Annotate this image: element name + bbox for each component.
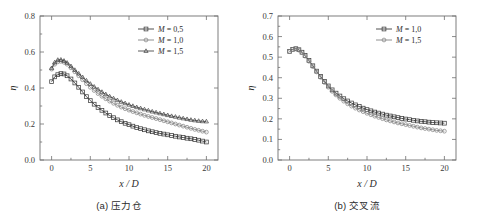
y-tick-label: 0.5 xyxy=(262,52,273,62)
y-tick-label: 0.2 xyxy=(262,114,273,124)
y-tick-label: 0.6 xyxy=(262,32,273,42)
y-axis-title: η xyxy=(245,85,256,90)
series-line xyxy=(290,49,445,123)
figure-container: 051015200.00.20.40.60.8x / DηM = 0,5M = … xyxy=(0,0,477,216)
x-tick-label: 0 xyxy=(287,163,291,173)
series-3 xyxy=(50,58,209,123)
legend-label: M = 0,5 xyxy=(157,25,183,34)
y-tick-label: 0.2 xyxy=(24,119,35,129)
chart-a: 051015200.00.20.40.60.8x / DηM = 0,5M = … xyxy=(0,0,238,196)
x-tick-label: 20 xyxy=(440,163,449,173)
x-tick-label: 20 xyxy=(202,163,211,173)
chart-b: 051015200.00.10.20.30.40.50.60.7x / DηM … xyxy=(238,0,476,196)
x-tick-label: 15 xyxy=(401,163,410,173)
legend-item[interactable]: M = 1,0 xyxy=(138,36,183,45)
legend-item[interactable]: M = 1,0 xyxy=(376,25,421,34)
series-line xyxy=(290,49,445,131)
legend-item[interactable]: M = 0,5 xyxy=(138,25,183,34)
x-axis-title: x / D xyxy=(356,178,377,189)
legend-label: M = 1,5 xyxy=(157,47,183,56)
series-line xyxy=(52,61,207,132)
panel-a: 051015200.00.20.40.60.8x / DηM = 0,5M = … xyxy=(0,0,238,216)
x-tick-label: 5 xyxy=(326,163,330,173)
caption-b: (b) 交叉流 xyxy=(238,198,476,212)
y-tick-label: 0.8 xyxy=(24,11,35,21)
series-1 xyxy=(50,72,209,144)
x-axis-title: x / D xyxy=(118,178,139,189)
x-tick-label: 10 xyxy=(125,163,134,173)
legend-item[interactable]: M = 1,5 xyxy=(138,47,183,56)
x-tick-label: 5 xyxy=(88,163,92,173)
x-tick-label: 0 xyxy=(49,163,53,173)
series-2 xyxy=(288,47,447,133)
y-tick-label: 0.6 xyxy=(24,47,35,57)
y-axis-title: η xyxy=(7,85,18,90)
axes: 051015200.00.10.20.30.40.50.60.7 xyxy=(262,11,456,173)
legend-label: M = 1,0 xyxy=(157,36,183,45)
x-tick-label: 15 xyxy=(163,163,172,173)
y-tick-label: 0.0 xyxy=(24,155,35,165)
series-group xyxy=(50,58,209,144)
axes: 051015200.00.20.40.60.8 xyxy=(24,11,218,173)
y-tick-label: 0.4 xyxy=(262,73,273,83)
legend-label: M = 1,0 xyxy=(395,25,421,34)
panel-b: 051015200.00.10.20.30.40.50.60.7x / DηM … xyxy=(238,0,476,216)
caption-a: (a) 压力仓 xyxy=(0,198,238,212)
series-line xyxy=(52,74,207,142)
y-tick-label: 0.0 xyxy=(262,155,273,165)
y-tick-label: 0.7 xyxy=(262,11,273,21)
series-group xyxy=(288,47,447,133)
legend: M = 0,5M = 1,0M = 1,5 xyxy=(138,25,183,56)
y-tick-label: 0.3 xyxy=(262,93,273,103)
y-tick-label: 0.1 xyxy=(262,134,273,144)
x-tick-label: 10 xyxy=(363,163,372,173)
plot-frame xyxy=(278,16,456,160)
legend-label: M = 1,5 xyxy=(395,36,421,45)
y-tick-label: 0.4 xyxy=(24,83,35,93)
legend: M = 1,0M = 1,5 xyxy=(376,25,421,45)
legend-item[interactable]: M = 1,5 xyxy=(376,36,421,45)
